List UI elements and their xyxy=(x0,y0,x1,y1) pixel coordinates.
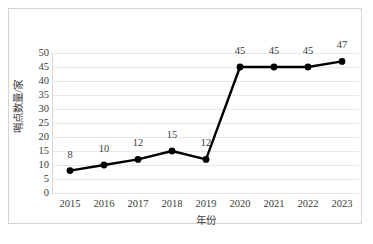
data-point-label: 10 xyxy=(99,144,110,155)
data-point-label: 45 xyxy=(235,46,246,57)
y-axis-tick-label: 15 xyxy=(27,146,49,157)
gridline xyxy=(53,193,359,194)
x-axis-tick-label: 2018 xyxy=(162,199,183,210)
y-axis-tick-label: 50 xyxy=(27,48,49,59)
y-axis-tick-label: 20 xyxy=(27,132,49,143)
x-axis-tick-label: 2019 xyxy=(196,199,217,210)
data-point-label: 8 xyxy=(67,150,72,161)
y-axis-tick-label: 25 xyxy=(27,118,49,129)
y-axis-tick-label: 5 xyxy=(27,174,49,185)
y-axis-title: 哨点数量/家 xyxy=(14,69,25,143)
y-axis-tick-label: 10 xyxy=(27,160,49,171)
x-axis-tick-label: 2023 xyxy=(332,199,353,210)
data-point-label: 12 xyxy=(133,138,144,149)
y-axis-tick-label: 30 xyxy=(27,104,49,115)
x-axis-tick-label: 2016 xyxy=(94,199,115,210)
y-axis-tick-labels: 05101520253035404550 xyxy=(23,53,49,193)
data-point-label: 45 xyxy=(269,46,280,57)
x-axis-tick-label: 2022 xyxy=(298,199,319,210)
chart-frame: 05101520253035404550 81012151245454547 2… xyxy=(8,8,362,224)
y-axis-tick-label: 35 xyxy=(27,90,49,101)
x-axis-tick-label: 2021 xyxy=(264,199,285,210)
data-labels: 81012151245454547 xyxy=(53,53,359,193)
y-axis-tick-label: 0 xyxy=(27,188,49,199)
data-point-label: 12 xyxy=(201,138,212,149)
data-point-label: 45 xyxy=(303,46,314,57)
data-point-label: 15 xyxy=(167,130,178,141)
x-axis-title: 年份 xyxy=(53,216,359,227)
data-point-label: 47 xyxy=(337,40,348,51)
x-axis-tick-label: 2020 xyxy=(230,199,251,210)
x-axis-tick-labels: 201520162017201820192020202120222023 xyxy=(53,199,359,213)
y-axis-tick-label: 45 xyxy=(27,62,49,73)
y-axis-tick-label: 40 xyxy=(27,76,49,87)
x-axis-tick-label: 2015 xyxy=(60,199,81,210)
x-axis-tick-label: 2017 xyxy=(128,199,149,210)
chart-figure: 05101520253035404550 81012151245454547 2… xyxy=(0,0,373,244)
